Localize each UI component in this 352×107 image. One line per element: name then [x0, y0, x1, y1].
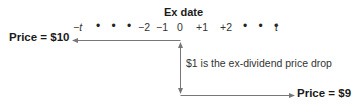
timeline-arrows — [0, 0, 352, 107]
arrow-down-icon — [178, 88, 183, 94]
arrow-left-icon — [72, 38, 78, 43]
arrow-right-icon — [289, 93, 295, 98]
arrow-up-icon — [178, 42, 183, 48]
